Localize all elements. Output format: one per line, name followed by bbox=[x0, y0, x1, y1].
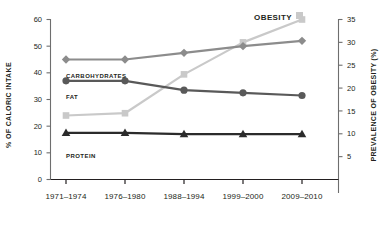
data-point-fat bbox=[239, 89, 246, 96]
series-label-obesity: OBESITY bbox=[254, 13, 292, 22]
y-tick-left: 0 bbox=[38, 175, 42, 184]
y-axis-right-title: PREVALENCE OF OBESITY (%) bbox=[370, 48, 378, 161]
y-tick-right: 10 bbox=[347, 129, 355, 138]
data-point-fat bbox=[298, 92, 305, 99]
y-tick-left: 30 bbox=[34, 95, 42, 104]
y-tick-right: 15 bbox=[347, 107, 355, 116]
x-tick-label: 1971–1974 bbox=[46, 192, 87, 201]
y-tick-right: 35 bbox=[347, 15, 355, 24]
y-tick-left: 20 bbox=[34, 122, 42, 131]
x-tick-label: 1988–1994 bbox=[164, 192, 205, 201]
y-axis-left: 6050403020100 bbox=[34, 15, 51, 184]
x-tick-label: 2009–2010 bbox=[282, 192, 323, 201]
series-obesity bbox=[63, 16, 306, 119]
data-point-obesity bbox=[63, 112, 70, 119]
y-tick-right: 25 bbox=[347, 61, 355, 70]
data-point-obesity bbox=[122, 110, 129, 117]
x-tick-label: 1999–2000 bbox=[223, 192, 264, 201]
data-point-fat bbox=[180, 87, 187, 94]
y-axis-right: 3530252015105 bbox=[339, 15, 356, 193]
series-label-carbohydrates: CARBOHYDRATES bbox=[66, 73, 126, 79]
series-fat bbox=[62, 77, 305, 99]
data-point-carbohydrates bbox=[62, 55, 70, 63]
data-point-obesity bbox=[181, 71, 188, 78]
series-label-protein: PROTEIN bbox=[66, 153, 96, 159]
chart-canvas: 6050403020100 3530252015105 1971–1974197… bbox=[0, 0, 387, 226]
x-tick-label: 1976–1980 bbox=[105, 192, 146, 201]
y-tick-left: 40 bbox=[34, 68, 42, 77]
y-tick-right: 5 bbox=[347, 152, 351, 161]
series-carbohydrates bbox=[62, 37, 306, 64]
y-tick-left: 60 bbox=[34, 15, 42, 24]
y-tick-left: 50 bbox=[34, 42, 42, 51]
nutrition-obesity-chart: 6050403020100 3530252015105 1971–1974197… bbox=[0, 0, 387, 226]
y-tick-left: 10 bbox=[34, 148, 42, 157]
series-label-fat: FAT bbox=[66, 94, 78, 100]
y-axis-right-ticks: 3530252015105 bbox=[339, 15, 356, 161]
y-tick-right: 30 bbox=[347, 38, 355, 47]
data-point-carbohydrates bbox=[180, 49, 188, 57]
series-line-obesity bbox=[66, 20, 302, 116]
y-tick-right: 20 bbox=[347, 84, 355, 93]
series-protein bbox=[62, 128, 307, 137]
x-axis: 1971–19741976–19801988–19941999–20002009… bbox=[46, 180, 339, 202]
y-axis-left-ticks: 6050403020100 bbox=[34, 15, 51, 184]
data-point-carbohydrates bbox=[121, 55, 129, 63]
y-axis-left-title: % OF CALORIC INTAKE bbox=[5, 62, 12, 148]
x-axis-ticks: 1971–19741976–19801988–19941999–20002009… bbox=[46, 180, 323, 202]
data-point-carbohydrates bbox=[298, 37, 306, 45]
legend-swatch-obesity bbox=[296, 12, 303, 19]
